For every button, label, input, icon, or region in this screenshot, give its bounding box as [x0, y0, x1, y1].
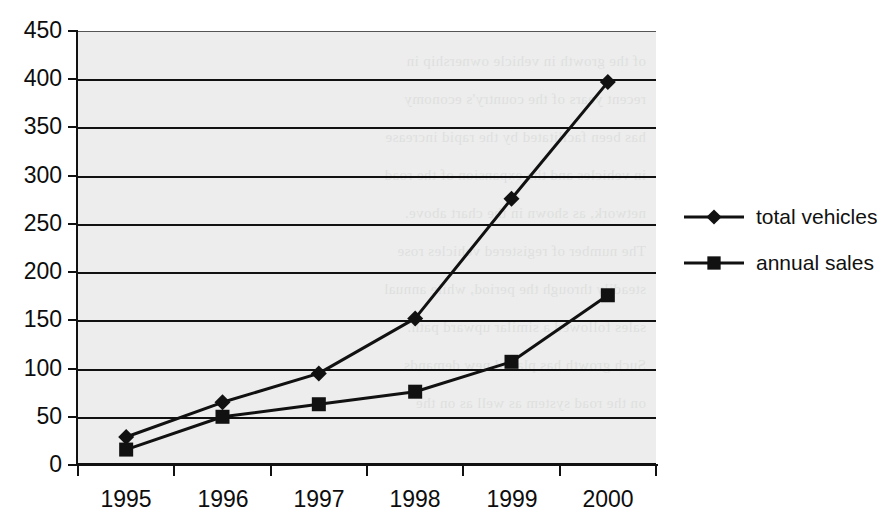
legend-marker-sample — [682, 251, 746, 275]
x-axis-tick — [173, 466, 175, 476]
chart-legend: total vehiclesannual sales — [682, 205, 865, 297]
x-axis-tick-label: 1997 — [271, 488, 367, 511]
y-axis-tick-label: 250 — [0, 212, 62, 235]
x-axis-tick — [462, 466, 464, 476]
y-axis-tick — [68, 271, 78, 273]
y-axis-tick — [68, 416, 78, 418]
y-axis-tick — [68, 368, 78, 370]
y-axis-tick-label: 200 — [0, 260, 62, 283]
y-axis-tick-label: 150 — [0, 308, 62, 331]
y-axis-tick-label: 0 — [0, 453, 62, 476]
y-axis-tick-label: 400 — [0, 67, 62, 90]
diamond-marker — [311, 365, 327, 381]
y-axis-tick — [68, 78, 78, 80]
x-axis-tick — [559, 466, 561, 476]
y-axis-tick — [68, 223, 78, 225]
y-axis-tick-label: 450 — [0, 19, 62, 42]
square-marker — [707, 256, 720, 269]
y-axis-tick — [68, 126, 78, 128]
x-axis-tick — [77, 466, 79, 476]
square-marker — [312, 397, 326, 411]
legend-label: annual sales — [756, 252, 874, 274]
square-marker — [601, 288, 615, 302]
square-marker — [505, 355, 519, 369]
y-axis-tick-label: 100 — [0, 357, 62, 380]
x-axis-tick-label: 2000 — [560, 488, 656, 511]
square-marker — [119, 443, 133, 457]
legend-item[interactable]: total vehicles — [682, 205, 865, 251]
series-line — [126, 295, 608, 449]
legend-label: total vehicles — [756, 206, 877, 228]
y-axis-tick-label: 300 — [0, 164, 62, 187]
square-marker — [216, 410, 230, 424]
y-axis-tick — [68, 319, 78, 321]
x-axis-tick — [366, 466, 368, 476]
y-axis-line — [76, 30, 78, 466]
x-axis-tick-label: 1999 — [464, 488, 560, 511]
diamond-marker — [706, 209, 721, 224]
series-annual-sales — [119, 288, 615, 456]
y-axis-tick — [68, 30, 78, 32]
x-axis-tick-label: 1995 — [78, 488, 174, 511]
y-axis-tick-label: 50 — [0, 405, 62, 428]
series-line — [126, 82, 608, 437]
legend-item[interactable]: annual sales — [682, 251, 865, 297]
diamond-marker — [215, 394, 231, 410]
series-total-vehicles — [118, 74, 616, 445]
y-axis-tick-label: 350 — [0, 115, 62, 138]
x-axis-tick — [655, 466, 657, 476]
square-marker — [408, 385, 422, 399]
x-axis-tick-label: 1998 — [367, 488, 463, 511]
data-series-layer — [78, 31, 656, 465]
legend-marker-sample — [682, 205, 746, 229]
x-axis-tick-label: 1996 — [175, 488, 271, 511]
x-axis-tick — [270, 466, 272, 476]
y-axis-tick — [68, 175, 78, 177]
